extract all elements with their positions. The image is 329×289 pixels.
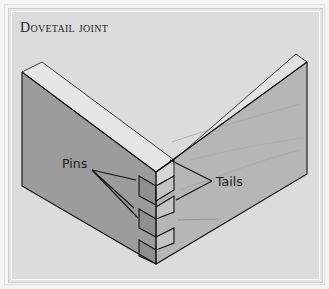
right-board-face	[156, 62, 307, 264]
tails	[156, 176, 174, 250]
pins	[139, 176, 156, 264]
tails-label: Tails	[216, 174, 243, 189]
dovetail-joint-illustration	[0, 0, 329, 289]
pins-label: Pins	[62, 156, 87, 171]
